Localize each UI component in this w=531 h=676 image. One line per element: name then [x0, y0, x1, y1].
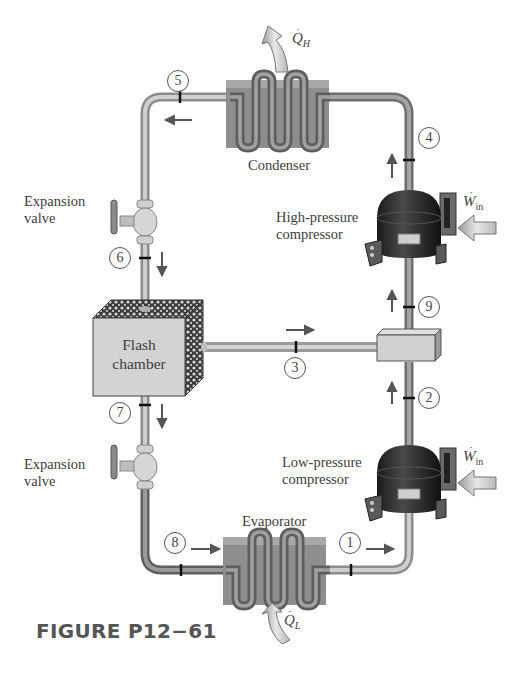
- evaporator: [223, 532, 330, 606]
- heat-out-arrow-icon: [262, 26, 288, 72]
- expansion-valve-upper-icon: [111, 200, 157, 244]
- q-l-label: ˙QL: [284, 612, 300, 631]
- flash-chamber-line2: chamber: [93, 354, 185, 373]
- flash-chamber-label: Flash chamber: [93, 335, 185, 374]
- state-8-marker: 8: [164, 532, 186, 554]
- flash-chamber-line1: Flash: [93, 335, 185, 354]
- state-2-marker: 2: [418, 387, 440, 409]
- state-7-marker: 7: [109, 402, 131, 424]
- low-pressure-compressor-label: Low-pressure compressor: [282, 454, 362, 487]
- state-9-marker: 9: [418, 296, 440, 318]
- w-in-high-label: ˙Win: [463, 193, 483, 212]
- condenser-label: Condenser: [248, 157, 310, 174]
- high-pressure-compressor-icon: [365, 190, 456, 266]
- state-3-marker: 3: [284, 357, 306, 379]
- expansion-valve-upper-line1: Expansion: [24, 193, 85, 210]
- state-1-marker: 1: [339, 532, 361, 554]
- high-pressure-compressor-line2: compressor: [276, 226, 358, 243]
- expansion-valve-lower-label: Expansion valve: [24, 456, 85, 489]
- state-6-marker: 6: [109, 247, 131, 269]
- high-pressure-compressor-label: High-pressure compressor: [276, 209, 358, 242]
- high-pressure-compressor-line1: High-pressure: [276, 209, 358, 226]
- work-in-high-arrow-icon: [458, 215, 496, 241]
- evaporator-label: Evaporator: [242, 513, 306, 530]
- state-4-marker: 4: [418, 127, 440, 149]
- expansion-valve-upper-line2: valve: [24, 210, 85, 227]
- mixing-chamber: [377, 329, 441, 361]
- low-pressure-compressor-line1: Low-pressure: [282, 454, 362, 471]
- expansion-valve-lower-icon: [111, 445, 157, 489]
- w-in-low-label: ˙Win: [463, 448, 483, 467]
- work-in-low-arrow-icon: [458, 470, 496, 496]
- low-pressure-compressor-icon: [365, 445, 456, 521]
- expansion-valve-lower-line1: Expansion: [24, 456, 85, 473]
- figure-caption: FIGURE P12−61: [36, 619, 217, 643]
- expansion-valve-lower-line2: valve: [24, 473, 85, 490]
- condenser: [226, 74, 330, 148]
- q-h-label: ˙QH: [292, 30, 310, 49]
- low-pressure-compressor-line2: compressor: [282, 471, 362, 488]
- expansion-valve-upper-label: Expansion valve: [24, 193, 85, 226]
- state-5-marker: 5: [167, 70, 189, 92]
- refrigeration-cycle-diagram: [0, 0, 531, 676]
